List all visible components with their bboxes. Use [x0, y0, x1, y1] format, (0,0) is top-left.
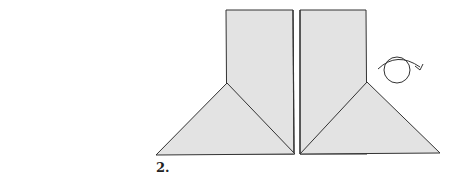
turn-over-icon: [378, 57, 423, 83]
origami-diagram: [0, 0, 461, 185]
step-number-label: 2.: [156, 160, 170, 175]
